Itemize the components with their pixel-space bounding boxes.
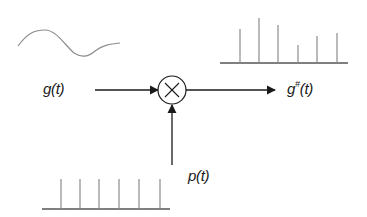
output-impulses — [220, 18, 348, 63]
input-label: g(t) — [43, 80, 64, 97]
output-label: g#(t) — [287, 80, 313, 97]
output-label-sup: # — [295, 79, 300, 89]
input-waveform — [18, 30, 120, 56]
multiplier-node — [158, 76, 186, 104]
sampling-impulses — [42, 179, 170, 209]
sampling-diagram — [0, 0, 367, 217]
output-label-base: g — [287, 80, 295, 97]
output-label-tail: (t) — [300, 80, 313, 97]
sampling-label: p(t) — [188, 167, 209, 184]
